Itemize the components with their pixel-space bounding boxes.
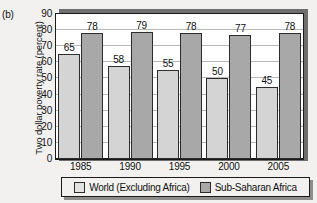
legend-swatch <box>74 182 85 193</box>
bar-value-label: 65 <box>64 42 75 53</box>
y-tick-label: 70 <box>26 40 52 51</box>
bar-value-label: 78 <box>186 21 197 32</box>
y-tick-label: 90 <box>26 8 52 19</box>
bar <box>256 87 278 160</box>
x-tick-label: 1990 <box>119 161 140 172</box>
y-tick-label: 10 <box>26 136 52 147</box>
x-tick-label: 2000 <box>218 161 239 172</box>
y-tick-label: 50 <box>26 72 52 83</box>
bar-value-label: 79 <box>136 20 147 31</box>
bar <box>108 66 130 159</box>
bar-value-label: 78 <box>284 21 295 32</box>
x-tick-label: 1995 <box>169 161 190 172</box>
bar-value-label: 58 <box>113 54 124 65</box>
legend-item: Sub-Saharan Africa <box>200 182 297 193</box>
bar-value-label: 50 <box>212 66 223 77</box>
bar <box>229 35 251 159</box>
bar-value-label: 77 <box>235 23 246 34</box>
figure-panel-b: (b) Two dollar poverty rate (percent) 01… <box>0 0 317 203</box>
legend-item: World (Excluding Africa) <box>74 182 190 193</box>
bar <box>131 32 153 159</box>
legend-label: Sub-Saharan Africa <box>215 182 297 193</box>
bar-value-label: 78 <box>87 21 98 32</box>
y-tick-label: 0 <box>26 153 52 164</box>
y-tick-label: 40 <box>26 88 52 99</box>
bar <box>58 54 80 159</box>
y-tick-label: 80 <box>26 24 52 35</box>
panel-label: (b) <box>2 9 14 20</box>
bar <box>206 78 228 159</box>
y-axis-tick-labels: 0102030405060708090 <box>26 12 52 160</box>
x-tick-label: 2005 <box>268 161 289 172</box>
chart-legend: World (Excluding Africa)Sub-Saharan Afri… <box>61 177 310 197</box>
y-tick-label: 20 <box>26 120 52 131</box>
plot-frame: 65785879557850774578 <box>55 13 304 160</box>
bar-value-label: 45 <box>261 75 272 86</box>
bar <box>180 33 202 159</box>
legend-swatch <box>200 182 211 193</box>
bar <box>157 70 179 159</box>
legend-label: World (Excluding Africa) <box>89 182 190 193</box>
bar <box>81 33 103 159</box>
plot-area: 65785879557850774578 <box>56 14 303 159</box>
bar-value-label: 55 <box>163 58 174 69</box>
y-tick-label: 30 <box>26 104 52 115</box>
bar <box>279 33 301 159</box>
x-axis-tick-labels: 19851990199520002005 <box>55 161 304 175</box>
x-tick-label: 1985 <box>70 161 91 172</box>
y-tick-label: 60 <box>26 56 52 67</box>
